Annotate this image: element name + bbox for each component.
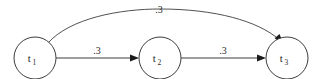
edge-t2-t3-arrowhead-icon <box>257 54 266 61</box>
edge-t1-t2-label: .3 <box>93 45 101 56</box>
edge-t2-t3-label: .3 <box>219 45 227 56</box>
graph-canvas: .3 .3 .3 t1 t2 t3 <box>0 0 320 79</box>
node-t1-subscript: 1 <box>32 58 36 67</box>
node-t2-base: t <box>153 52 156 64</box>
node-t3-base: t <box>280 52 283 64</box>
edge-t1-t2: .3 <box>56 45 139 62</box>
node-t3-subscript: 3 <box>284 58 288 67</box>
node-t3: t3 <box>266 37 308 79</box>
node-t2: t2 <box>139 37 181 79</box>
edge-t1-t3-label: .3 <box>155 4 163 15</box>
transition-graph-diagram: .3 .3 .3 t1 t2 t3 <box>0 0 320 79</box>
edge-t2-t3: .3 <box>181 45 266 62</box>
edge-t1-t2-arrowhead-icon <box>130 54 139 61</box>
node-t2-subscript: 2 <box>157 58 161 67</box>
node-t1: t1 <box>14 37 56 79</box>
node-t1-base: t <box>28 52 31 64</box>
